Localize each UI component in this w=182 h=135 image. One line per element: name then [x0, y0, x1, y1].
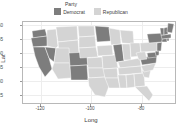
legend-swatch-republican	[94, 8, 101, 15]
x-axis-label: Long	[0, 117, 182, 124]
state-michigan	[120, 30, 134, 44]
y-axis-label: Lat	[0, 48, 7, 70]
state-new-mexico	[70, 65, 88, 80]
state-arizona	[52, 63, 71, 79]
y-tick-label-5: 25	[0, 93, 3, 98]
state-new-jersey	[157, 42, 162, 51]
chart-root: Party Democrat Republican 50 45 40 35 30…	[0, 0, 182, 135]
state-wisconsin	[109, 28, 121, 45]
state-maine	[167, 23, 174, 33]
legend-item-republican[interactable]: Republican	[94, 8, 128, 15]
us-choropleth-map	[23, 22, 176, 104]
state-south-dakota	[79, 36, 96, 48]
state-minnesota	[95, 26, 111, 42]
state-idaho	[47, 29, 58, 48]
legend: Party Democrat Republican	[0, 1, 182, 15]
legend-keys: Democrat Republican	[54, 8, 128, 15]
state-florida	[135, 86, 153, 101]
state-alabama	[126, 74, 135, 88]
y-tick-label-4: 30	[0, 79, 3, 84]
state-montana	[56, 26, 78, 42]
state-kansas	[87, 57, 103, 68]
x-tick-label-0: -120	[29, 106, 51, 111]
legend-swatch-democrat	[54, 8, 61, 15]
state-pennsylvania	[140, 42, 158, 52]
y-tick-label-1: 45	[0, 37, 3, 42]
state-nebraska	[79, 47, 98, 58]
x-tick-label-1: -100	[79, 106, 101, 111]
y-tick-label-0: 50	[0, 23, 3, 28]
legend-title: Party	[65, 1, 77, 7]
state-iowa	[97, 45, 113, 56]
legend-item-democrat[interactable]: Democrat	[54, 8, 85, 15]
state-north-dakota	[78, 26, 95, 37]
legend-label-democrat: Democrat	[63, 9, 85, 15]
state-oklahoma	[88, 68, 105, 78]
legend-label-republican: Republican	[103, 9, 128, 15]
state-arkansas	[103, 68, 118, 78]
plot-panel	[22, 21, 176, 104]
x-tick-label-2: -80	[130, 106, 152, 111]
state-utah	[54, 48, 70, 63]
state-oregon	[31, 36, 48, 47]
